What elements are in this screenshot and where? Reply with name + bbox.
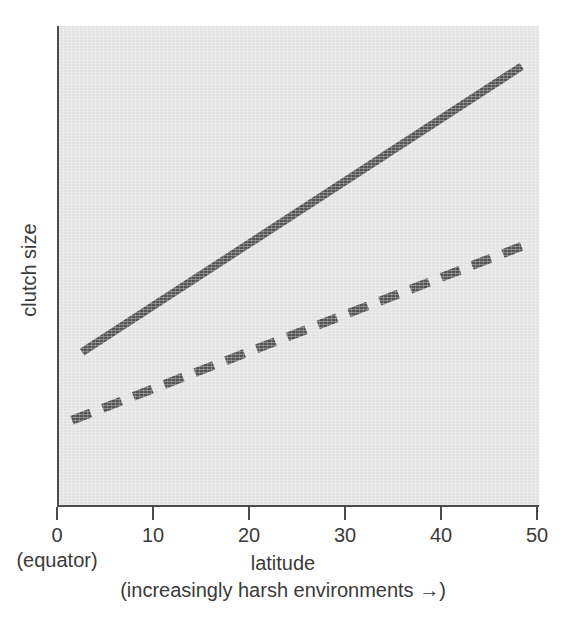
plot-area [57,26,539,507]
x-axis-tick-label-30: 30 [315,523,375,547]
y-axis-title-text: clutch size [18,223,41,316]
y-axis-title: clutch size [14,200,44,340]
x-axis-subtitle: (increasingly harsh environments →) [0,578,566,602]
x-axis-title: latitude [0,551,566,575]
x-axis-tick-10 [152,507,154,520]
x-axis-tick-label-20: 20 [219,523,279,547]
x-axis-tick-30 [344,507,346,520]
x-axis-tick-label-50: 50 [507,523,566,547]
series-layer [59,26,539,505]
x-axis-tick-50 [536,507,538,520]
x-axis-tick-label-40: 40 [411,523,471,547]
x-axis-tick-label-0: 0 [27,523,87,547]
series-dashed-trend [72,243,530,420]
series-solid-trend [82,66,522,352]
x-axis-tick-20 [248,507,250,520]
x-axis-tick-label-10: 10 [123,523,183,547]
x-axis-tick-40 [440,507,442,520]
figure-chart-clutch-size-vs-latitude: 01020304050 (equator) latitude (increasi… [0,0,566,618]
x-axis-tick-0 [56,507,58,520]
